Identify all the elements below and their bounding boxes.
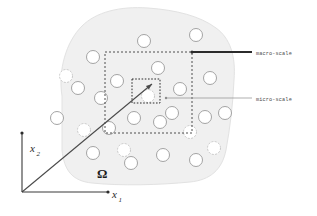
inclusion-circle	[208, 142, 221, 155]
x-axis-label-group: x 1	[111, 188, 122, 204]
inclusion-circle	[154, 116, 167, 129]
inclusion-circle	[95, 92, 108, 105]
callout-anchor-dot	[165, 97, 167, 99]
inclusion-circle	[174, 83, 187, 96]
inclusion-circle	[125, 157, 138, 170]
y-axis-label: x	[29, 142, 35, 154]
inclusion-circle	[184, 126, 197, 139]
inclusion-circle	[118, 144, 131, 157]
inclusion-circle	[111, 75, 124, 88]
inclusion-circle	[157, 149, 170, 162]
inclusion-circle	[138, 35, 151, 48]
callout-label-macro-scale: macro-scale	[256, 51, 292, 57]
inclusion-circle	[190, 154, 203, 167]
inclusion-circle	[128, 112, 141, 125]
inclusion-circle	[204, 72, 217, 85]
inclusion-circle	[152, 62, 165, 75]
x-axis-label: x	[111, 188, 117, 200]
y-axis-subscript: 2	[37, 150, 41, 158]
x-axis-subscript: 1	[119, 196, 123, 204]
inclusion-circle	[219, 107, 232, 120]
inclusion-circle	[78, 124, 91, 137]
callout-label-micro-scale: micro-scale	[256, 97, 292, 103]
inclusion-circle	[87, 51, 100, 64]
domain-label-omega: Ω	[97, 166, 107, 181]
inclusion-circle	[87, 147, 100, 160]
inclusion-circle	[51, 112, 64, 125]
y-axis-label-group: x 2	[29, 142, 41, 158]
inclusion-circle	[199, 111, 212, 124]
inclusion-circle	[166, 107, 179, 120]
inclusion-circle	[72, 82, 85, 95]
figure-canvas: x 2 x 1 Ω macro-scalemicro-scale	[0, 0, 317, 216]
diagram-svg: x 2 x 1 Ω macro-scalemicro-scale	[0, 0, 317, 216]
callout-anchor-dot	[191, 51, 194, 54]
inclusion-circle	[60, 70, 73, 83]
inclusion-circle	[190, 29, 203, 42]
